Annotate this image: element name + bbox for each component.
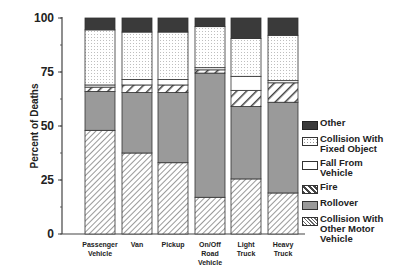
legend-item: Collision WithFixed Object — [302, 134, 398, 154]
bar-segment — [231, 107, 261, 179]
bar-segment — [268, 35, 298, 80]
bar-light-truck — [231, 18, 261, 234]
bar-segment — [195, 70, 225, 73]
y-tick-label: 50 — [41, 119, 55, 133]
legend-item: Other — [302, 118, 398, 130]
bar-passenger-vehicle — [85, 18, 115, 234]
y-tick-label: 0 — [47, 227, 54, 241]
legend-swatch-icon — [302, 121, 318, 130]
bar-segment — [158, 85, 188, 93]
bar-segment — [85, 91, 115, 130]
bars — [85, 18, 298, 234]
x-tick-label: Pickup — [162, 241, 185, 249]
x-tick-label: Van — [131, 241, 143, 248]
legend-item: Fire — [302, 182, 398, 194]
x-tick-label: Truck — [274, 250, 293, 257]
y-tick-label: 75 — [41, 65, 55, 79]
bar-segment — [195, 197, 225, 234]
bar-segment — [158, 163, 188, 234]
bar-van — [122, 18, 152, 234]
legend-label: Rollover — [320, 198, 358, 208]
bar-segment — [231, 18, 261, 39]
bar-segment — [231, 179, 261, 234]
bar-segment — [158, 32, 188, 80]
legend-item: Fall FromVehicle — [302, 158, 398, 178]
bar-segment — [85, 87, 115, 91]
bar-segment — [122, 93, 152, 153]
bar-segment — [158, 80, 188, 85]
bar-segment — [195, 27, 225, 68]
bar-segment — [122, 153, 152, 234]
legend-swatch-icon — [302, 217, 318, 226]
bar-segment — [85, 18, 115, 30]
x-tick-label: Passenger — [82, 241, 118, 249]
bar-segment — [268, 83, 298, 102]
y-tick-label: 100 — [34, 11, 54, 25]
bar-segment — [122, 80, 152, 85]
x-tick-label: Road — [201, 250, 219, 257]
bar-on-off-road-vehicle — [195, 18, 225, 234]
category-labels: PassengerVehicleVanPickupOn/OffRoadVehic… — [82, 241, 293, 266]
bar-segment — [195, 18, 225, 27]
x-tick-label: Vehicle — [198, 259, 222, 266]
legend-swatch-icon — [302, 161, 318, 170]
x-tick-label: Vehicle — [88, 250, 112, 257]
y-axis-label: Percent of Deaths — [29, 83, 40, 168]
bar-segment — [122, 85, 152, 93]
bar-segment — [268, 102, 298, 193]
bar-heavy-truck — [268, 18, 298, 234]
bar-segment — [122, 32, 152, 80]
legend-label: Collision WithOther MotorVehicle — [320, 214, 383, 244]
legend-item: Collision WithOther MotorVehicle — [302, 214, 398, 244]
x-tick-label: Truck — [237, 250, 256, 257]
bar-segment — [268, 193, 298, 234]
bar-segment — [231, 76, 261, 90]
bar-segment — [231, 90, 261, 106]
legend-swatch-icon — [302, 201, 318, 210]
legend-swatch-icon — [302, 137, 318, 146]
bar-pickup — [158, 18, 188, 234]
bar-segment — [85, 30, 115, 85]
bar-segment — [195, 73, 225, 197]
bar-segment — [158, 18, 188, 32]
legend-label: Fall FromVehicle — [320, 158, 363, 178]
legend-item: Rollover — [302, 198, 398, 210]
legend-swatch-icon — [302, 185, 318, 194]
x-tick-label: Heavy — [273, 241, 294, 249]
bar-segment — [231, 39, 261, 77]
bar-segment — [158, 93, 188, 163]
x-tick-label: Light — [237, 241, 255, 249]
legend-label: Collision WithFixed Object — [320, 134, 383, 154]
bar-segment — [85, 130, 115, 234]
bar-segment — [268, 18, 298, 35]
legend-label: Other — [320, 118, 345, 128]
legend-label: Fire — [320, 182, 337, 192]
x-tick-label: On/Off — [199, 241, 221, 248]
bar-segment — [122, 18, 152, 32]
y-tick-label: 25 — [41, 173, 55, 187]
legend: OtherCollision WithFixed ObjectFall From… — [302, 118, 398, 248]
